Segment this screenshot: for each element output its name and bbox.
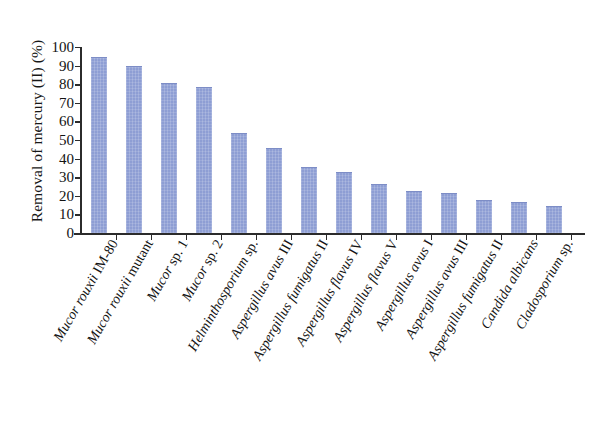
bar bbox=[231, 133, 247, 233]
bar bbox=[441, 193, 457, 233]
bar bbox=[161, 83, 177, 233]
strain-suffix: IM-80 bbox=[87, 237, 121, 279]
bar bbox=[301, 167, 317, 233]
y-axis-tick bbox=[75, 159, 81, 160]
y-axis-tick bbox=[75, 177, 81, 178]
y-axis-tick-label: 20 bbox=[34, 189, 74, 204]
y-axis-tick-label: 90 bbox=[34, 59, 74, 74]
y-axis-tick bbox=[75, 121, 81, 122]
y-axis-tick-label: 70 bbox=[34, 96, 74, 111]
bar bbox=[336, 172, 352, 233]
y-axis-tick bbox=[75, 47, 81, 48]
y-axis-tick-label: 30 bbox=[34, 170, 74, 185]
y-axis-tick bbox=[75, 66, 81, 67]
strain-suffix: mutant bbox=[121, 237, 156, 282]
y-axis-tick-label: 0 bbox=[34, 226, 74, 241]
bar bbox=[266, 148, 282, 233]
y-axis-tick bbox=[75, 214, 81, 215]
bar-chart-figure: Removal of mercury (II) (%) 100908070605… bbox=[0, 0, 593, 441]
y-axis-tick-label: 80 bbox=[34, 77, 74, 92]
bar bbox=[476, 200, 492, 233]
x-axis-tick-labels: Mucor rouxii IM-80Mucor rouxii mutantMuc… bbox=[80, 237, 585, 441]
y-axis-tick bbox=[75, 140, 81, 141]
strain-suffix: sp. 1 bbox=[162, 237, 191, 271]
species-name: Mucor bbox=[178, 263, 211, 304]
bar bbox=[371, 184, 387, 233]
bar bbox=[196, 87, 212, 233]
plot-area bbox=[80, 47, 585, 233]
bar bbox=[511, 202, 527, 233]
y-axis-tick-label: 100 bbox=[34, 40, 74, 55]
species-name: Mucor bbox=[143, 263, 176, 304]
y-axis-tick-label: 50 bbox=[34, 133, 74, 148]
bar bbox=[546, 206, 562, 233]
bar bbox=[126, 66, 142, 233]
y-axis-tick bbox=[75, 233, 81, 234]
bar bbox=[91, 57, 107, 233]
y-axis-tick-labels: 1009080706050403020100 bbox=[34, 40, 74, 240]
y-axis-tick bbox=[75, 196, 81, 197]
strain-suffix: sp. 2 bbox=[197, 237, 226, 271]
y-axis-tick-label: 10 bbox=[34, 207, 74, 222]
y-axis-tick-label: 40 bbox=[34, 152, 74, 167]
y-axis-tick bbox=[75, 84, 81, 85]
y-axis-tick bbox=[75, 103, 81, 104]
y-axis-tick-label: 60 bbox=[34, 114, 74, 129]
bar bbox=[406, 191, 422, 233]
